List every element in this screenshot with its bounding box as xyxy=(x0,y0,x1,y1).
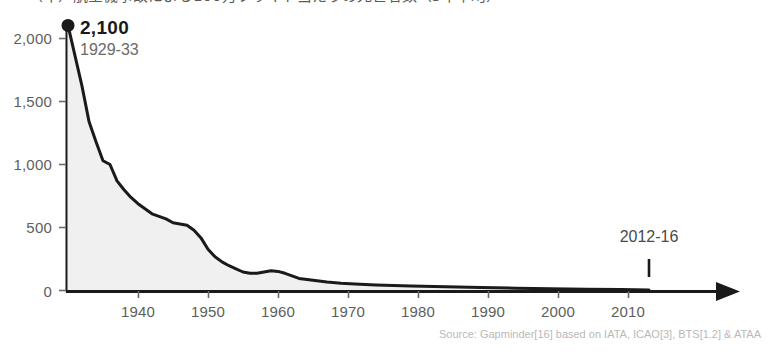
y-tick-label-500: 500 xyxy=(0,219,52,236)
y-tick-label-1500: 1,500 xyxy=(0,93,52,110)
x-tick-label-1970: 1970 xyxy=(331,303,365,320)
chart-container: （年）航空機事故による100万フライト当たりの死亡者数（5年平均） xyxy=(0,0,769,354)
x-tick-label-1990: 1990 xyxy=(471,303,505,320)
x-tick-label-1960: 1960 xyxy=(261,303,295,320)
y-tick-label-2000: 2,000 xyxy=(0,30,52,47)
x-tick-label-1950: 1950 xyxy=(191,303,225,320)
x-tick-label-2000: 2000 xyxy=(541,303,575,320)
x-tick-label-1980: 1980 xyxy=(401,303,435,320)
peak-value-label: 2,100 xyxy=(80,17,129,39)
y-tick-label-1000: 1,000 xyxy=(0,156,52,173)
x-tick-label-2010: 2010 xyxy=(611,303,645,320)
peak-period-label: 1929-33 xyxy=(80,41,139,59)
y-axis-ticks xyxy=(59,39,66,291)
series-area-fill xyxy=(68,25,649,291)
peak-marker-dot xyxy=(62,19,75,32)
end-period-label: 2012-16 xyxy=(620,228,679,246)
source-note: Source: Gapminder[16] based on IATA, ICA… xyxy=(439,328,761,340)
x-tick-label-1940: 1940 xyxy=(121,303,155,320)
x-axis-arrowhead xyxy=(716,282,740,301)
y-tick-label-0: 0 xyxy=(0,283,52,300)
